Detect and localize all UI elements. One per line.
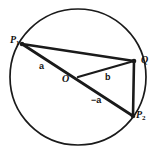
diagram-canvas <box>0 0 160 157</box>
vector-label-a: a <box>39 62 44 71</box>
point-label-q-text: Q <box>141 54 148 65</box>
point-label-q: Q <box>141 55 148 65</box>
vertex-dot-q <box>132 59 137 64</box>
vector-label-negative-a: −a <box>91 96 101 105</box>
vertex-dot-p1 <box>20 42 25 47</box>
point-label-p2-subscript: 2 <box>142 114 146 122</box>
vertex-dot-p2 <box>131 114 136 119</box>
vector-label-b: b <box>105 73 111 82</box>
chord-p1-q <box>22 44 134 61</box>
point-label-p1-subscript: 1 <box>16 39 20 47</box>
point-label-p1: P1 <box>10 35 20 45</box>
geometry-diagram: P1 Q P2 O a b −a <box>0 0 160 157</box>
chord-q-p2 <box>133 61 134 116</box>
diameter-p1-p2 <box>22 44 133 116</box>
center-label-o: O <box>62 74 69 84</box>
point-label-p2: P2 <box>136 110 146 120</box>
